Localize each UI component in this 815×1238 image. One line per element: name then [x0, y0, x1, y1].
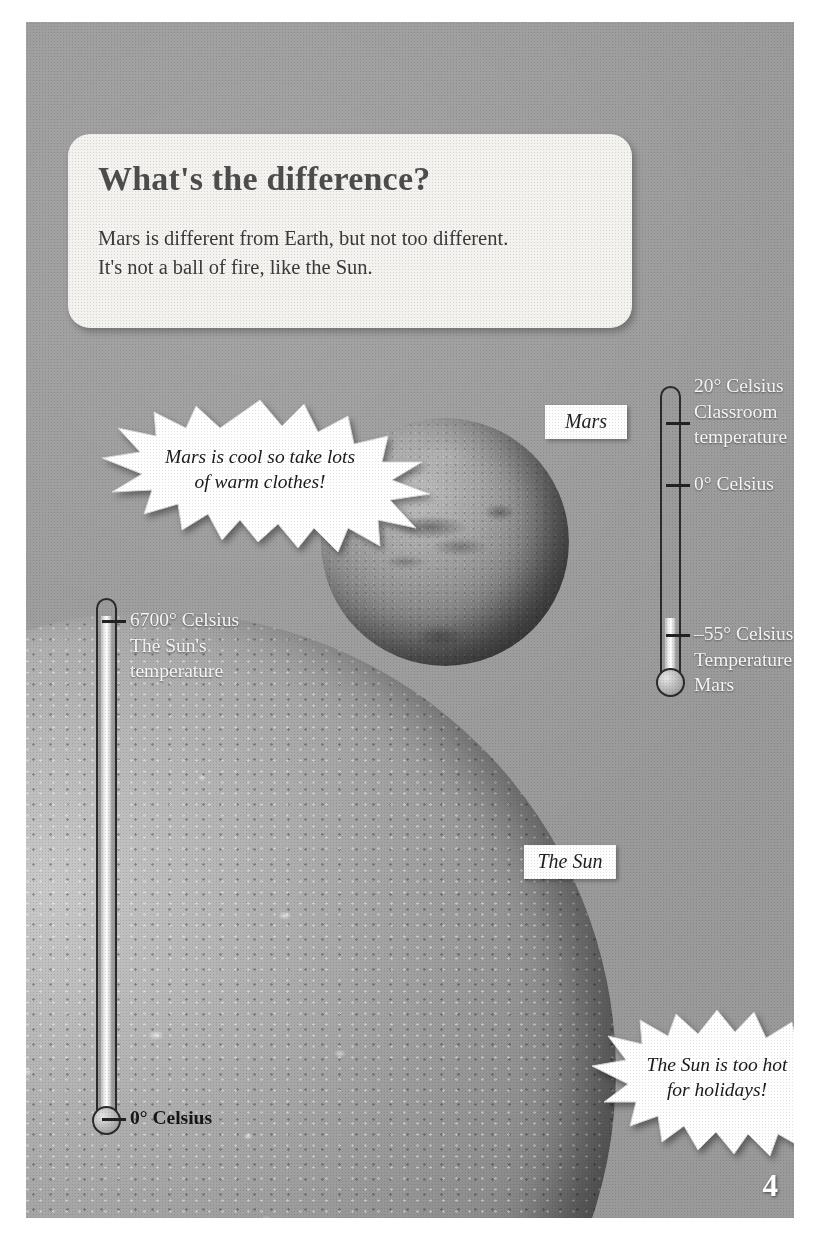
mars-callout-starburst: Mars is cool so take lots of warm clothe…	[86, 396, 434, 544]
page-number: 4	[763, 1168, 779, 1204]
sun-thermometer-note-sun: The Sun's temperature	[130, 634, 223, 683]
thermometer-tick-m55c	[666, 634, 690, 637]
sun-thermometer-label-0c: 0° Celsius	[130, 1106, 212, 1131]
header-card: What's the difference? Mars is different…	[68, 134, 632, 328]
thermometer-bulb	[656, 668, 685, 697]
book-page: What's the difference? Mars is different…	[0, 0, 815, 1238]
mars-thermometer-note-classroom: Classroom temperature	[694, 400, 787, 449]
starburst-shape-icon	[586, 1004, 794, 1152]
page-title: What's the difference?	[98, 160, 602, 198]
thermometer-tick-20c	[666, 422, 690, 425]
sun-thermometer-label-6700c: 6700° Celsius	[130, 608, 239, 633]
mars-thermometer-label-20c: 20° Celsius	[694, 374, 784, 399]
header-body-line-1: Mars is different from Earth, but not to…	[98, 224, 602, 253]
sun-callout-starburst: The Sun is too hot for holidays!	[586, 1004, 794, 1152]
mars-thermometer: 20° Celsius Classroom temperature 0° Cel…	[654, 380, 794, 700]
page-content-area: What's the difference? Mars is different…	[26, 22, 794, 1218]
mars-thermometer-label-m55c: –55° Celsius	[694, 622, 793, 647]
header-body-line-2: It's not a ball of fire, like the Sun.	[98, 253, 602, 282]
header-body-text: Mars is different from Earth, but not to…	[98, 224, 602, 282]
thermometer-mercury-column	[101, 616, 112, 1124]
thermometer-tick-0c	[666, 484, 690, 487]
thermometer-tick-0c	[102, 1118, 126, 1121]
sun-thermometer: 6700° Celsius The Sun's temperature 0° C…	[90, 594, 310, 1146]
sun-caption-label: The Sun	[524, 845, 616, 879]
starburst-shape-icon	[86, 396, 434, 544]
thermometer-tick-6700c	[102, 620, 126, 623]
mars-thermometer-label-0c: 0° Celsius	[694, 472, 774, 497]
mars-caption-label: Mars	[545, 405, 627, 439]
mars-thermometer-note-mars: Temperature on Mars	[694, 648, 794, 697]
